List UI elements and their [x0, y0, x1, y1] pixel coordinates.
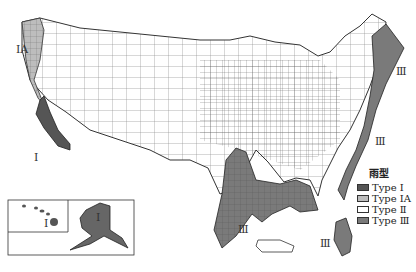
legend-item-type-iii: Type Ⅲ: [357, 215, 415, 226]
rainfall-type-map: IA I Ⅲ Ⅲ Ⅲ Ⅲ I I 雨型 Type Ⅰ Type ⅠA Type …: [0, 0, 416, 272]
label-i-hawaii: I: [44, 218, 48, 229]
legend-item-type-ii: Type Ⅱ: [357, 204, 415, 215]
inset-frame: [8, 200, 134, 255]
swatch-type-ia: [357, 195, 369, 202]
type-iii-florida-region: [334, 218, 352, 256]
swatch-type-iii: [357, 217, 369, 224]
label-i-alaska: I: [96, 212, 100, 223]
label-iii-midatlantic: Ⅲ: [375, 136, 386, 147]
label-iii-florida: Ⅲ: [320, 238, 331, 249]
label-iii-northeast: Ⅲ: [396, 66, 407, 77]
legend-item-type-ia: Type ⅠA: [357, 193, 415, 204]
legend-title: 雨型: [369, 165, 415, 180]
label-i-california: I: [34, 152, 38, 163]
swatch-type-i: [357, 184, 369, 191]
hawaii: [22, 205, 58, 227]
legend: 雨型 Type Ⅰ Type ⅠA Type Ⅱ Type Ⅲ: [357, 165, 415, 226]
label-iii-gulf: Ⅲ: [238, 224, 249, 235]
legend-item-type-i: Type Ⅰ: [357, 182, 415, 193]
swatch-type-ii: [357, 206, 369, 213]
label-ia-northwest: IA: [16, 44, 28, 55]
puerto-rico: [256, 240, 294, 252]
us-map: [0, 0, 416, 272]
